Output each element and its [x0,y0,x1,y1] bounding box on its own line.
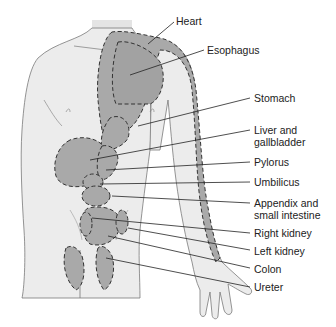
label-liver-line1: Liver and [254,124,305,136]
label-right-kidney: Right kidney [254,227,312,239]
label-ureter: Ureter [254,281,283,293]
label-esophagus: Esophagus [207,44,260,56]
label-appendix-line2: small intestine [254,209,321,221]
label-colon: Colon [254,263,281,275]
label-liver: Liver and gallbladder [254,124,305,148]
label-heart: Heart [176,15,202,27]
label-left-kidney: Left kidney [254,245,305,257]
label-liver-line2: gallbladder [254,136,305,148]
label-appendix: Appendix and small intestine [254,197,321,221]
label-umbilicus: Umbilicus [254,176,300,188]
label-pylorus: Pylorus [254,156,289,168]
label-stomach: Stomach [254,92,295,104]
label-appendix-line1: Appendix and [254,197,321,209]
